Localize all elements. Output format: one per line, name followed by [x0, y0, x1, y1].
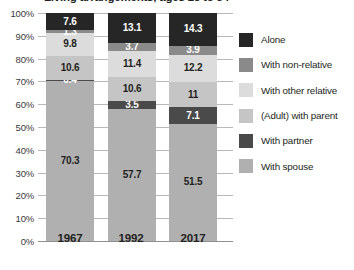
bar-segment-with-non-relative[interactable]: 3.7 [108, 43, 156, 51]
segment-value-label: 14.3 [184, 24, 203, 34]
plot-area: 0%10%20%30%40%50%60%70%80%90%100% 70.30.… [38, 13, 233, 241]
bar-segment-alone[interactable]: 14.3 [169, 13, 217, 46]
legend-swatch-icon [239, 109, 253, 123]
bar-segment-with-partner[interactable]: 3.5 [108, 101, 156, 109]
y-axis-tick-label: 80% [16, 53, 34, 64]
legend-swatch-icon [239, 83, 253, 97]
legend-item-with-non-relative[interactable]: With non-relative [239, 52, 351, 77]
bar-segment-with-other-relative[interactable]: 12.2 [169, 55, 217, 83]
legend-item-adult-with-parent[interactable]: (Adult) with parent [239, 103, 351, 128]
bar-segment-alone[interactable]: 7.6 [46, 13, 94, 30]
segment-value-label: 3.5 [125, 100, 138, 110]
bar-2017[interactable]: 51.57.11112.23.914.3 [169, 13, 217, 241]
legend-label: (Adult) with parent [261, 110, 338, 121]
chart-title: Living arrangements, ages 25 to 34 [44, 0, 244, 5]
bar-segment-with-spouse[interactable]: 70.3 [46, 81, 94, 241]
bar-segment-with-non-relative[interactable]: 1.3 [46, 30, 94, 33]
bar-segment-alone[interactable]: 13.1 [108, 13, 156, 43]
legend-swatch-icon [239, 134, 253, 148]
segment-value-label: 7.6 [63, 17, 76, 27]
x-axis-tick-label-1967: 1967 [46, 232, 94, 244]
legend-label: With other relative [261, 85, 337, 96]
legend-label: Alone [261, 34, 285, 45]
legend-item-alone[interactable]: Alone [239, 27, 351, 52]
bar-segment-with-partner[interactable]: 7.1 [169, 107, 217, 123]
legend-item-with-other-relative[interactable]: With other relative [239, 78, 351, 103]
bar-segment-adult-with-parent[interactable]: 10.6 [108, 77, 156, 101]
legend-swatch-icon [239, 33, 253, 47]
stacked-bar-chart: Living arrangements, ages 25 to 34 0%10%… [0, 0, 354, 270]
segment-value-label: 10.6 [61, 63, 80, 73]
legend-label: With non-relative [261, 59, 332, 70]
legend-label: With spouse [261, 161, 313, 172]
segment-value-label: 70.3 [61, 156, 80, 166]
bar-1992[interactable]: 57.73.510.611.43.713.1 [108, 13, 156, 241]
segment-value-label: 7.1 [186, 111, 199, 121]
segment-value-label: 9.8 [63, 39, 76, 49]
segment-value-label: 13.1 [123, 23, 142, 33]
segment-value-label: 51.5 [184, 177, 203, 187]
segment-value-label: 57.7 [123, 170, 142, 180]
segment-value-label: 12.2 [184, 63, 203, 73]
segment-value-label: 11 [188, 90, 198, 100]
y-axis-tick-label: 30% [16, 167, 34, 178]
bar-segment-adult-with-parent[interactable]: 11 [169, 82, 217, 107]
y-axis-tick-label: 90% [16, 30, 34, 41]
x-axis-tick-label-2017: 2017 [169, 232, 217, 244]
bar-segment-with-partner[interactable]: 0.4 [46, 80, 94, 81]
y-axis-tick-label: 20% [16, 190, 34, 201]
x-axis-tick-label-1992: 1992 [107, 232, 155, 244]
segment-value-label: 10.6 [123, 84, 142, 94]
bar-segment-with-non-relative[interactable]: 3.9 [169, 46, 217, 55]
y-axis-tick-label: 70% [16, 76, 34, 87]
chart-legend: AloneWith non-relativeWith other relativ… [239, 27, 351, 179]
legend-label: With partner [261, 135, 313, 146]
y-axis-tick-label: 10% [16, 213, 34, 224]
legend-item-with-spouse[interactable]: With spouse [239, 153, 351, 178]
y-axis-tick-label: 0% [21, 236, 34, 247]
y-axis-tick-label: 60% [16, 99, 34, 110]
bar-1967[interactable]: 70.30.410.69.81.37.6 [46, 13, 94, 241]
bar-segment-with-spouse[interactable]: 57.7 [108, 109, 156, 241]
segment-value-label: 11.4 [123, 59, 141, 69]
legend-item-with-partner[interactable]: With partner [239, 128, 351, 153]
segment-value-label: 3.7 [125, 42, 138, 52]
bar-segment-with-spouse[interactable]: 51.5 [169, 124, 217, 241]
y-axis-tick-label: 40% [16, 144, 34, 155]
segment-value-label: 3.9 [186, 45, 199, 55]
bar-segment-adult-with-parent[interactable]: 10.6 [46, 56, 94, 80]
bar-segment-with-other-relative[interactable]: 11.4 [108, 51, 156, 77]
legend-swatch-icon [239, 58, 253, 72]
legend-swatch-icon [239, 159, 253, 173]
y-axis-tick-label: 100% [11, 8, 35, 19]
y-axis-tick-label: 50% [16, 122, 34, 133]
